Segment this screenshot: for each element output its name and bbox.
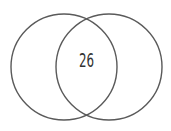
intersection-count: 26: [79, 49, 94, 72]
right-set-circle: [56, 14, 162, 120]
left-set-circle: [11, 14, 117, 120]
venn-diagram: 26: [0, 0, 171, 131]
